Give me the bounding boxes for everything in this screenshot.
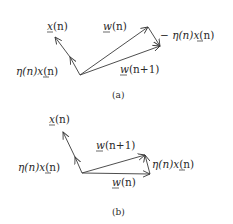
eta-x-vector-b bbox=[75, 157, 82, 173]
label-eta-x-left-a: η(n)x(n) bbox=[16, 65, 58, 77]
caption-a: (a) bbox=[112, 90, 124, 100]
figure-a: x(n) η(n)x(n) w(n) − η(n)x(n) w(n+1) (a) bbox=[16, 20, 214, 100]
minus-eta-x-vector-a bbox=[148, 27, 160, 46]
figure-b: x(n) η(n)x(n) w(n+1) η(n)x(n) w(n) (b) bbox=[18, 113, 194, 217]
label-x-n-b: x(n) bbox=[49, 113, 70, 125]
x-vector-a bbox=[55, 37, 70, 57]
perceptron-update-diagram: x(n) η(n)x(n) w(n) − η(n)x(n) w(n+1) (a)… bbox=[0, 0, 233, 224]
label-w-n1-a: w(n+1) bbox=[120, 63, 159, 75]
eta-x-vector-a bbox=[70, 57, 80, 75]
label-x-n-a: x(n) bbox=[47, 20, 68, 32]
x-vector-b bbox=[63, 132, 75, 157]
caption-b: (b) bbox=[112, 207, 125, 217]
label-minus-eta-x-a: − η(n)x(n) bbox=[160, 29, 214, 41]
w-n1-vector-b bbox=[82, 155, 145, 173]
w-n-vector-b bbox=[82, 173, 150, 174]
label-w-n1-b: w(n+1) bbox=[96, 139, 135, 151]
eta-x-vector-right-b bbox=[145, 155, 150, 174]
label-eta-x-left-b: η(n)x(n) bbox=[18, 161, 60, 173]
label-w-n-a: w(n) bbox=[103, 20, 127, 32]
label-eta-x-right-b: η(n)x(n) bbox=[152, 158, 194, 170]
label-w-n-b: w(n) bbox=[112, 176, 136, 188]
